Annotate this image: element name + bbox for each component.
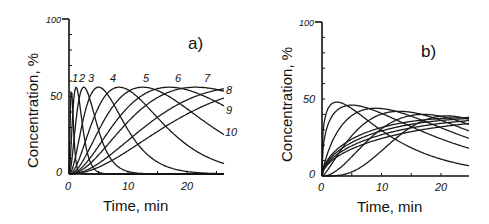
curve-label-9: 9 [226, 104, 232, 116]
chart-b: 100 50 0 0 10 20 Time, min Concentration… [278, 18, 469, 215]
chart-b-ytick-100: 100 [299, 18, 314, 28]
curve-8 [69, 87, 224, 174]
chart-a-ytick-50: 50 [50, 90, 63, 102]
chart-b-xtick-20: 20 [434, 181, 448, 193]
curve-8 [322, 119, 469, 177]
chart-b-y-label: Concentration, % [278, 47, 295, 162]
chart-b-ytick-0: 0 [309, 168, 316, 180]
chart-b-xtick-10: 10 [376, 181, 389, 193]
chart-b-panel-label: b) [421, 42, 436, 61]
chart-a-panel-label: a) [188, 34, 203, 53]
curve-label-6: 6 [175, 72, 182, 84]
chart-a-y-label: Concentration, % [24, 53, 41, 168]
curve-label-4: 4 [110, 72, 116, 84]
chart-a-x-label: Time, min [103, 197, 168, 214]
figure: 100 50 0 0 10 20 Time, min Concentration… [0, 0, 489, 224]
curve-label-10: 10 [225, 126, 238, 138]
chart-a-xtick-20: 20 [180, 180, 194, 192]
chart-a-xtick-0: 0 [65, 180, 72, 192]
chart-a-ytick-100: 100 [46, 15, 61, 25]
chart-a: 100 50 0 0 10 20 Time, min Concentration… [24, 15, 238, 214]
curve-label-7: 7 [204, 72, 211, 84]
chart-a-curves [69, 87, 224, 174]
curve-9 [322, 121, 469, 176]
curve-label-1: 1 [72, 72, 78, 84]
curve-label-5: 5 [143, 72, 150, 84]
curve-label-2: 2 [78, 72, 85, 84]
chart-b-x-label: Time, min [357, 198, 422, 215]
chart-a-xtick-10: 10 [122, 180, 135, 192]
chart-b-xtick-0: 0 [318, 181, 325, 193]
chart-b-ytick-50: 50 [303, 93, 316, 105]
curve-label-3: 3 [88, 72, 95, 84]
chart-b-curves [322, 102, 469, 176]
curve-label-8: 8 [226, 84, 233, 96]
chart-a-ytick-0: 0 [56, 166, 63, 178]
